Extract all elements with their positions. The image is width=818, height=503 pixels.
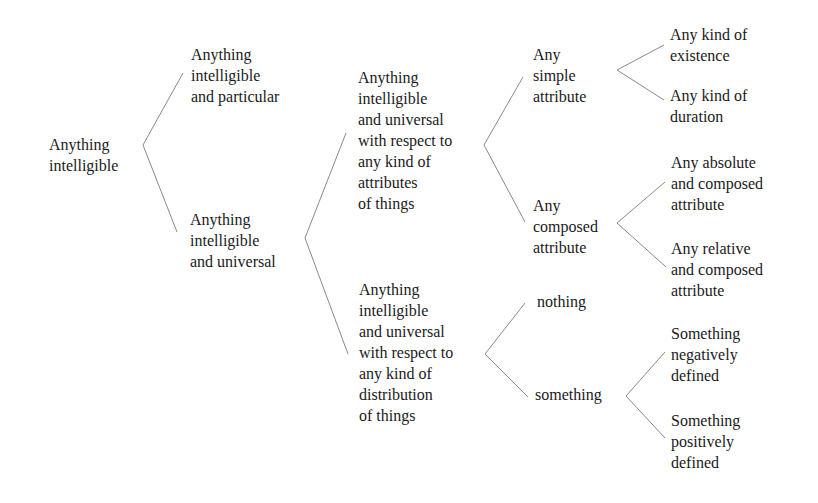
node-attributes-of-things: Anything intelligible and universal with… <box>358 67 452 214</box>
node-positively-defined: Something positively defined <box>671 410 740 473</box>
node-absolute-composed: Any absolute and composed attribute <box>671 152 763 215</box>
node-relative-composed: Any relative and composed attribute <box>671 238 763 301</box>
node-simple-attribute: Any simple attribute <box>533 44 586 107</box>
node-something: something <box>535 384 602 405</box>
node-existence: Any kind of existence <box>670 24 747 66</box>
node-intelligible-particular: Anything intelligible and particular <box>191 44 279 107</box>
bracket-root <box>143 73 183 232</box>
bracket-attributes <box>484 77 525 222</box>
node-nothing: nothing <box>537 291 586 312</box>
node-anything-intelligible: Anything intelligible <box>49 134 118 176</box>
node-composed-attribute: Any composed attribute <box>533 195 598 258</box>
node-negatively-defined: Something negatively defined <box>671 323 740 386</box>
node-intelligible-universal: Anything intelligible and universal <box>190 209 276 272</box>
bracket-something <box>626 352 665 438</box>
bracket-universal <box>305 133 348 354</box>
bracket-composed-attribute <box>617 182 666 267</box>
node-distribution-of-things: Anything intelligible and universal with… <box>359 279 453 426</box>
bracket-simple-attribute <box>617 45 664 100</box>
bracket-distribution <box>485 303 528 397</box>
node-duration: Any kind of duration <box>670 85 747 127</box>
